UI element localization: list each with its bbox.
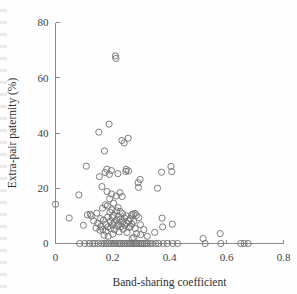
x-tick-label: 0.4 <box>163 251 177 263</box>
y-tick-label: 0 <box>43 237 49 249</box>
y-tick-label: 40 <box>38 127 50 139</box>
data-point <box>217 230 223 236</box>
y-tick-label: 80 <box>38 16 50 28</box>
data-point <box>99 183 105 189</box>
scatter-plot-figure: 02040608000.20.40.60.8 Band-sharing coef… <box>0 0 297 294</box>
data-point <box>125 135 131 141</box>
x-tick-label: 0.2 <box>106 251 120 263</box>
data-point <box>96 174 102 180</box>
x-tick-label: 0.8 <box>277 251 291 263</box>
data-point <box>101 148 107 154</box>
data-point <box>144 233 150 239</box>
y-axis-title: Extra-pair paternity (%) <box>6 78 19 189</box>
data-point <box>96 129 102 135</box>
data-point <box>66 215 72 221</box>
data-point <box>76 192 82 198</box>
ticks-group <box>56 23 284 244</box>
y-tick-label: 60 <box>38 72 50 84</box>
data-point <box>106 121 112 127</box>
data-points-group <box>52 53 251 247</box>
data-point <box>135 184 141 190</box>
data-point <box>141 227 147 233</box>
data-point <box>115 171 121 177</box>
y-tick-label: 20 <box>38 182 50 194</box>
data-point <box>83 163 89 169</box>
data-point <box>159 215 165 221</box>
data-point <box>94 210 100 216</box>
data-point <box>158 169 164 175</box>
chart-canvas: 02040608000.20.40.60.8 Band-sharing coef… <box>0 0 297 294</box>
data-point <box>80 222 86 228</box>
data-point <box>152 229 158 235</box>
data-point <box>169 221 175 227</box>
axes-group <box>56 23 284 244</box>
x-tick-label: 0 <box>53 251 59 263</box>
x-tick-label: 0.6 <box>220 251 234 263</box>
data-point <box>154 185 160 191</box>
data-point <box>160 224 166 230</box>
x-axis-title: Band-sharing coefficient <box>113 276 228 289</box>
tick-labels-group: 02040608000.20.40.60.8 <box>38 16 291 262</box>
data-point <box>101 232 107 238</box>
